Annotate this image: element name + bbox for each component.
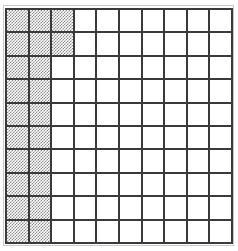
grid-cell	[7, 197, 28, 218]
grid-cell	[75, 221, 96, 242]
grid-cell	[120, 197, 141, 218]
grid-cell	[188, 104, 209, 125]
grid-cell	[188, 10, 209, 31]
grid-cell	[188, 57, 209, 78]
grid-cell	[97, 174, 118, 195]
grid-cell	[30, 80, 51, 101]
grid-cell	[30, 197, 51, 218]
grid-cell	[97, 221, 118, 242]
grid-cell	[143, 80, 164, 101]
grid-cell	[165, 127, 186, 148]
grid-cell	[30, 127, 51, 148]
grid-cell	[210, 174, 231, 195]
grid-cell	[210, 221, 231, 242]
grid-cell	[30, 104, 51, 125]
grid-cell	[210, 80, 231, 101]
grid-cell	[143, 57, 164, 78]
grid-cell	[52, 221, 73, 242]
grid-cell	[165, 221, 186, 242]
grid-cell	[75, 150, 96, 171]
grid-cell	[97, 197, 118, 218]
grid-cell	[52, 57, 73, 78]
grid-cell	[75, 197, 96, 218]
grid-cell	[210, 33, 231, 54]
grid-cell	[143, 197, 164, 218]
grid-cell	[120, 221, 141, 242]
grid-cell	[165, 197, 186, 218]
grid-cell	[188, 150, 209, 171]
grid-cell	[165, 10, 186, 31]
grid-cell	[143, 127, 164, 148]
grid-cell	[188, 174, 209, 195]
grid-cell	[97, 127, 118, 148]
grid-cell	[188, 221, 209, 242]
grid-cell	[7, 104, 28, 125]
grid-cell	[165, 80, 186, 101]
grid-cell	[165, 57, 186, 78]
grid-cell	[97, 33, 118, 54]
grid-cell	[97, 57, 118, 78]
grid-cell	[52, 127, 73, 148]
grid-cell	[7, 10, 28, 31]
grid-cell	[120, 57, 141, 78]
grid-cell	[120, 127, 141, 148]
grid-cell	[52, 33, 73, 54]
grid-cell	[52, 80, 73, 101]
grid-cell	[52, 150, 73, 171]
grid-cell	[188, 197, 209, 218]
grid-cell	[210, 127, 231, 148]
grid-cell	[97, 10, 118, 31]
grid-cell	[143, 174, 164, 195]
grid-cell	[120, 80, 141, 101]
grid-cell	[165, 33, 186, 54]
grid-cell	[165, 150, 186, 171]
grid-cell	[30, 10, 51, 31]
grid-cell	[210, 104, 231, 125]
grid-cell	[120, 104, 141, 125]
grid-cell	[52, 104, 73, 125]
grid-cell	[52, 174, 73, 195]
grid-cell	[143, 104, 164, 125]
grid-cell	[30, 221, 51, 242]
grid-cell	[52, 197, 73, 218]
grid-cell	[30, 57, 51, 78]
grid-cell	[7, 221, 28, 242]
figure-canvas	[0, 0, 238, 251]
grid-cell	[188, 80, 209, 101]
grid-cell	[120, 33, 141, 54]
grid-cell	[75, 10, 96, 31]
grid-cell	[97, 80, 118, 101]
grid-cell	[30, 150, 51, 171]
grid-cell	[75, 104, 96, 125]
grid-cell	[75, 33, 96, 54]
grid-cell	[143, 221, 164, 242]
grid-cell	[210, 57, 231, 78]
grid-cell	[143, 150, 164, 171]
grid-cell	[210, 150, 231, 171]
grid-cell	[143, 33, 164, 54]
grid-cell	[75, 174, 96, 195]
grid-cell	[210, 197, 231, 218]
grid-cell	[30, 33, 51, 54]
grid-cell	[7, 150, 28, 171]
grid-cell	[7, 33, 28, 54]
grid-cell	[120, 150, 141, 171]
grid-cell	[120, 10, 141, 31]
grid-cell	[165, 174, 186, 195]
grid-cell	[7, 57, 28, 78]
grid-cell	[7, 174, 28, 195]
grid-cell	[7, 80, 28, 101]
grid-cell	[120, 174, 141, 195]
grid-cell	[30, 174, 51, 195]
grid-cell	[210, 10, 231, 31]
grid-cell	[165, 104, 186, 125]
grid-cell	[97, 150, 118, 171]
hundred-grid	[5, 8, 233, 244]
grid-cell	[188, 33, 209, 54]
grid-cell	[7, 127, 28, 148]
grid-cell	[52, 10, 73, 31]
grid-cell	[75, 127, 96, 148]
grid-cell	[97, 104, 118, 125]
grid-cell	[75, 57, 96, 78]
grid-cell	[188, 127, 209, 148]
